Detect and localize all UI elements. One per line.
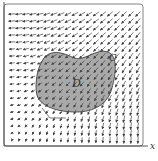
vector-arrow [86,33,92,37]
vector-arrow [137,109,139,116]
vector-arrow [16,63,21,64]
vector-arrow [24,76,29,77]
vector-arrow [65,33,71,36]
vector-arrow [9,63,14,64]
vector-arrow [96,130,97,136]
vector-arrow [93,40,98,45]
vector-arrow [108,33,113,38]
vector-arrow [46,124,48,128]
vector-arrow [116,123,117,129]
vector-arrow [88,123,89,128]
vector-arrow [122,53,126,59]
vector-arrow [39,124,41,127]
vector-arrow [17,97,21,98]
vector-arrow [81,117,83,122]
vector-arrow [136,53,140,59]
vector-arrow [115,74,119,80]
vector-arrow [102,116,104,122]
vector-arrow [17,77,22,78]
vector-arrow [58,47,64,50]
vector-arrow [51,20,57,23]
vector-arrow [44,27,51,29]
vector-arrow [47,131,48,135]
vector-arrow [16,28,23,29]
vector-arrow [47,138,48,142]
vector-arrow [79,12,85,16]
vector-arrow [44,34,50,36]
vector-arrow [82,131,83,136]
vector-arrow [116,116,118,122]
vector-arrow [58,20,64,23]
region-label-d: D [71,77,81,90]
vector-arrow [129,46,133,52]
vector-arrow [122,60,126,66]
vector-arrow [23,48,29,49]
vector-arrow [10,98,14,99]
vector-arrow [30,34,36,36]
vector-arrow [46,117,48,120]
vector-arrow [138,130,139,137]
vector-arrow [136,39,140,45]
vector-arrow [107,26,112,31]
vector-arrow [23,34,29,35]
vector-arrow [95,109,97,115]
vector-arrow [24,83,28,85]
vector-arrow [89,130,90,135]
vector-arrow [93,12,99,16]
vector-arrow [107,19,112,24]
vector-arrow [131,123,132,130]
vector-arrow [30,27,37,29]
vector-arrow [136,32,140,37]
vector-arrow [25,125,27,127]
vector-arrow [24,104,27,106]
vector-arrow [93,33,98,37]
vector-arrow [129,60,133,66]
vector-arrow [38,104,41,107]
vector-arrow [65,26,71,29]
vector-arrow [123,88,126,94]
vector-arrow [58,27,64,30]
vector-arrow [130,109,132,116]
vector-arrow [37,48,43,50]
vector-arrow [30,13,37,15]
vector-arrow [24,97,28,99]
vector-arrow [137,88,140,94]
vector-arrow [86,40,91,44]
vector-arrow [115,39,120,44]
vector-arrow [72,12,78,15]
vector-arrow [65,40,71,44]
vector-arrow [130,116,131,123]
vector-arrow [79,33,85,37]
vector-arrow [130,81,133,87]
vector-arrow [136,18,141,23]
vector-arrow [93,26,99,30]
vector-arrow [24,69,29,70]
vector-arrow [37,13,44,15]
vector-arrow [122,39,127,44]
vector-arrow [72,26,78,30]
x-axis-label: x [150,141,155,151]
vector-arrow [136,74,139,80]
vector-arrow [30,48,36,50]
vector-arrow [53,124,55,128]
vector-arrow [37,20,44,22]
vector-arrow [75,131,76,136]
vector-arrow [11,139,12,141]
vector-arrow [129,19,134,24]
vector-arrow [123,95,126,101]
vector-arrow [53,110,55,114]
vector-arrow [23,13,30,14]
curve-label-c: C [109,52,117,63]
vector-arrow [60,117,62,121]
vector-arrow [39,131,40,134]
vector-arrow [108,46,113,51]
vector-arrow [130,95,132,102]
vector-arrow [32,118,34,121]
vector-arrow [86,47,91,52]
vector-arrow [138,123,139,130]
vector-arrow [100,33,105,38]
vector-arrow [33,138,34,141]
vector-arrow [100,19,105,23]
vector-arrow [37,41,43,43]
vector-arrow [10,105,14,106]
